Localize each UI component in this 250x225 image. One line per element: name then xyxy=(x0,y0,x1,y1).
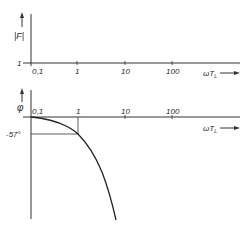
up-arrow-icon xyxy=(20,12,24,27)
x-tick-1: 1 xyxy=(75,67,79,76)
phase-y-tick-57: -57° xyxy=(6,130,22,139)
bode-diagram: |F| 1 0,1 1 10 100 ωTL φ 0,1 1 10 xyxy=(0,0,250,225)
x-tick-10: 10 xyxy=(121,67,130,76)
up-arrow-icon xyxy=(20,88,24,102)
right-arrow-icon xyxy=(220,71,240,75)
phase-curve xyxy=(31,117,116,220)
x-tick-0-1: 0,1 xyxy=(32,107,43,116)
phase-x-label: ωTL xyxy=(203,124,217,134)
phase-plot: φ 0,1 1 10 100 ωTL -57° xyxy=(6,88,240,220)
right-arrow-icon xyxy=(220,126,240,130)
x-tick-100: 100 xyxy=(166,67,180,76)
magnitude-plot: |F| 1 0,1 1 10 100 ωTL xyxy=(14,12,240,79)
magnitude-y-tick-1: 1 xyxy=(17,59,21,68)
x-tick-0-1: 0,1 xyxy=(32,67,43,76)
x-tick-10: 10 xyxy=(121,107,130,116)
phase-y-label: φ xyxy=(17,102,24,113)
magnitude-x-label: ωTL xyxy=(203,69,217,79)
magnitude-y-label: |F| xyxy=(14,31,24,41)
x-tick-1: 1 xyxy=(76,107,80,116)
x-tick-100: 100 xyxy=(166,107,180,116)
